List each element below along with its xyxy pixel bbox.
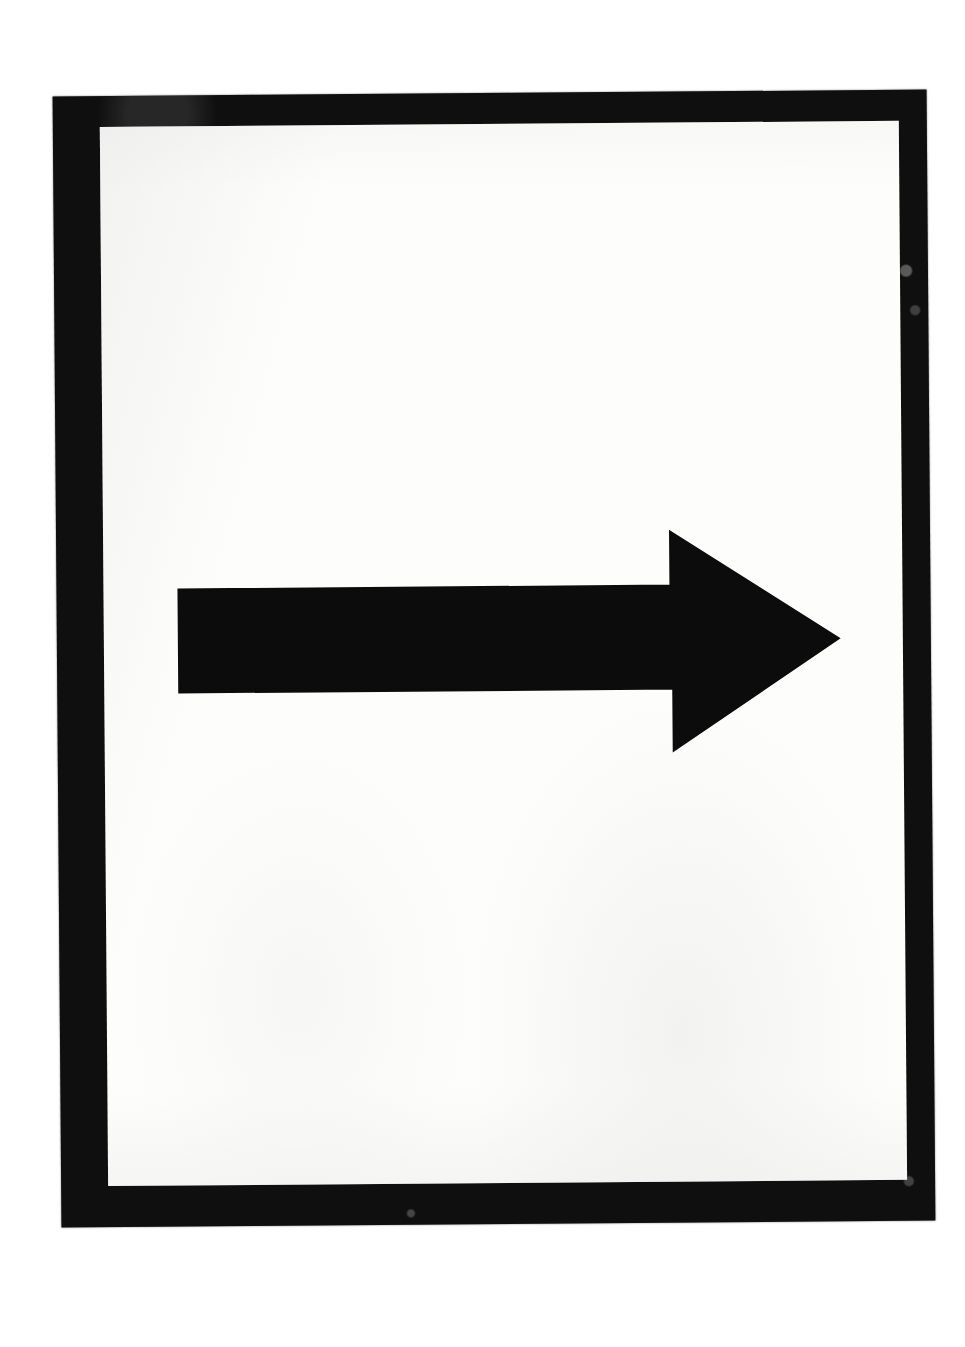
white-inner-panel: Arrow pointing right xyxy=(100,121,907,1186)
sign-frame: Arrow pointing right xyxy=(53,90,936,1228)
scanned-page: Arrow pointing right xyxy=(0,0,965,1347)
right-arrow-icon xyxy=(178,530,840,754)
arrow-graphic xyxy=(100,121,907,1186)
